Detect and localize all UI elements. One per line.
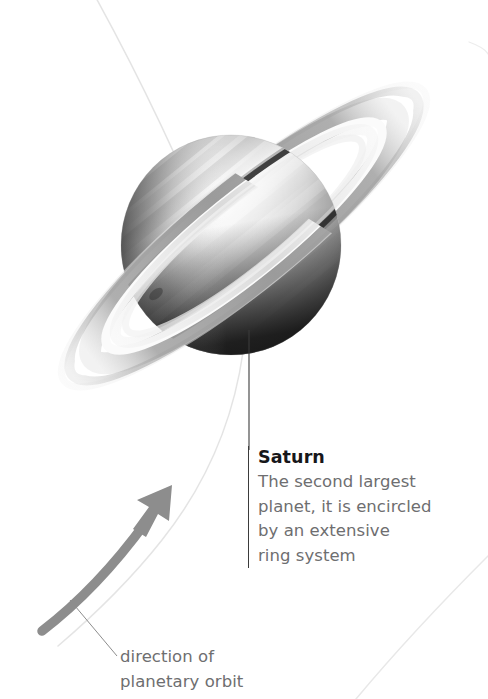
saturn-diagram: Saturn The second largest planet, it is … [0, 0, 488, 699]
callout-body-saturn: The second largest planet, it is encircl… [258, 470, 478, 568]
callout-body-orbit: direction of planetary orbit [120, 645, 350, 694]
callout-line: ring system [258, 544, 478, 569]
callout-line: direction of [120, 645, 350, 670]
saturn-illustration [0, 0, 488, 699]
callout-line: The second largest [258, 470, 478, 495]
saturn-callout: Saturn The second largest planet, it is … [248, 446, 478, 568]
orbit-direction-arrow [42, 485, 172, 631]
callout-line: by an extensive [258, 519, 478, 544]
orbit-direction-callout: direction of planetary orbit [120, 645, 350, 694]
orbit-leader-line [70, 600, 117, 656]
callout-title-saturn: Saturn [258, 446, 478, 469]
callout-line: planet, it is encircled [258, 495, 478, 520]
callout-line: planetary orbit [120, 670, 350, 695]
